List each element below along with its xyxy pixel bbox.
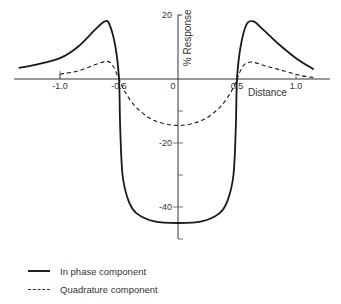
y-axis-title: % Response [182, 9, 193, 66]
line-chart: -1.0-0.500.51.020-20-40% ResponseDistanc… [0, 0, 341, 304]
y-tick-label: 20 [162, 10, 172, 20]
x-tick-label: -1.0 [52, 81, 68, 91]
solid-line-swatch-icon [28, 270, 50, 272]
legend-item-in-phase: In phase component [28, 262, 158, 280]
legend-label: Quadrature component [60, 284, 158, 295]
x-axis-title: Distance [248, 87, 287, 98]
legend-item-quadrature: Quadrature component [28, 280, 158, 298]
x-tick-label: 1.0 [290, 81, 303, 91]
y-tick-label: -40 [159, 202, 172, 212]
in-phase-series-line [19, 21, 314, 223]
dashed-line-swatch-icon [28, 289, 50, 290]
legend: In phase component Quadrature component [28, 262, 158, 298]
chart-container: -1.0-0.500.51.020-20-40% ResponseDistanc… [0, 0, 341, 304]
y-tick-label: -20 [159, 138, 172, 148]
x-tick-label: 0 [170, 81, 175, 91]
legend-label: In phase component [60, 266, 146, 277]
